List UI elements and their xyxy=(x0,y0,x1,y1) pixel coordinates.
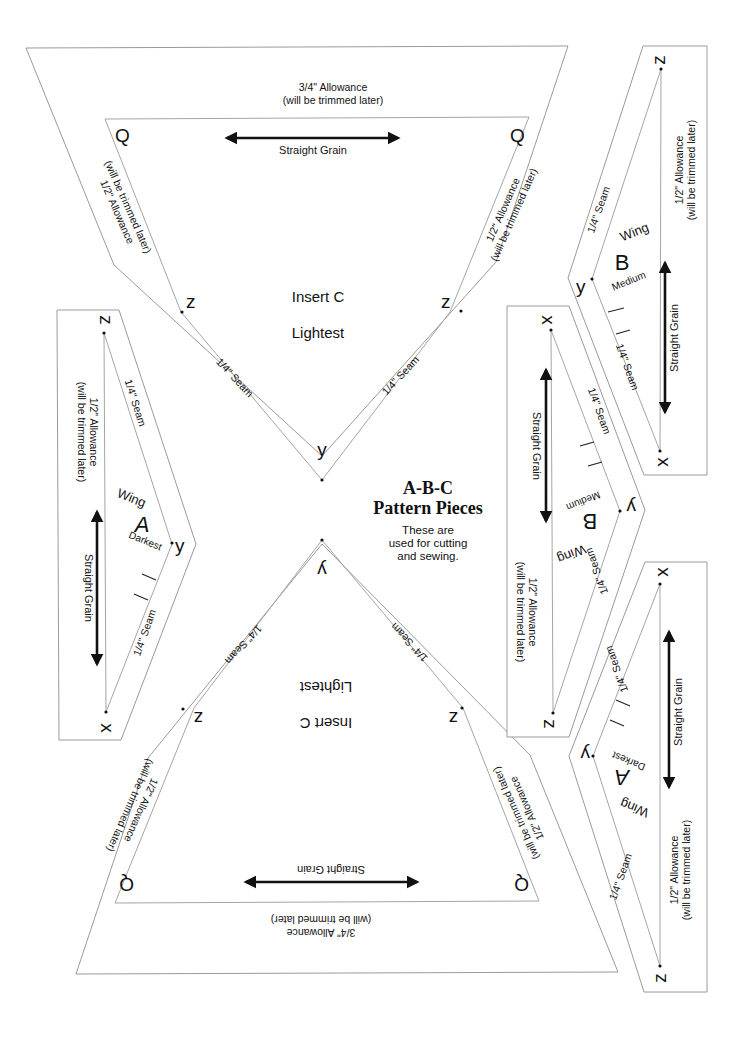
straight-grain-label: Straight Grain xyxy=(297,864,365,876)
point-marker xyxy=(104,710,107,713)
point-marker xyxy=(618,509,621,512)
point-marker xyxy=(460,706,463,709)
allowance-note: (will be trimmed later) xyxy=(283,94,383,106)
point-marker xyxy=(658,449,661,452)
title-line-2: Pattern Pieces xyxy=(373,498,482,518)
straight-grain-label: Straight Grain xyxy=(279,144,347,156)
point-marker xyxy=(170,541,173,544)
allowance-label: 1/2" Allowance xyxy=(527,578,539,647)
allowance-label: 3/4" Allowance xyxy=(299,81,368,93)
piece-shade: Lightest xyxy=(299,679,352,696)
point-label-y: y xyxy=(175,535,185,556)
point-marker xyxy=(102,331,105,334)
straight-grain-label: Straight Grain xyxy=(668,304,680,372)
piece-name: Insert C xyxy=(300,715,353,732)
point-marker xyxy=(551,711,554,714)
allowance-label: 1/2" Allowance xyxy=(673,136,685,205)
wing-a-left-piece: z x y 1/2" Allowance (will be trimmed la… xyxy=(57,310,196,740)
point-marker xyxy=(658,582,661,585)
point-label-y: y xyxy=(626,497,636,518)
point-marker xyxy=(320,478,323,481)
point-label-y: y xyxy=(317,439,327,460)
corner-label-q: Q xyxy=(119,874,134,895)
subtitle-line-3: and sewing. xyxy=(397,550,458,562)
straight-grain-label: Straight Grain xyxy=(672,678,684,746)
corner-label-q: Q xyxy=(115,125,130,146)
pattern-sheet: Straight Grain 3/4" Allowance (will be t… xyxy=(0,0,755,1051)
straight-grain-label: Straight Grain xyxy=(83,554,95,622)
allowance-label: 1/2" Allowance xyxy=(668,836,680,905)
point-label-z: z xyxy=(648,55,669,65)
piece-letter: A xyxy=(615,765,632,790)
title-line-1: A-B-C xyxy=(403,478,453,498)
point-label-z: z xyxy=(649,973,670,983)
point-label-y: y xyxy=(317,560,327,581)
allowance-note: (will be trimmed later) xyxy=(76,382,88,482)
point-marker xyxy=(658,964,661,967)
allowance-note: (will be trimmed later) xyxy=(680,820,692,920)
point-label-x: x xyxy=(97,723,118,733)
allowance-label: 3/4" Allowance xyxy=(287,927,356,939)
point-marker xyxy=(181,707,184,710)
point-label-z: z xyxy=(441,291,451,312)
corner-label-q: Q xyxy=(510,125,525,146)
point-label-x: x xyxy=(538,315,559,325)
piece-letter: B xyxy=(615,250,630,275)
point-marker xyxy=(659,67,662,70)
point-marker xyxy=(459,309,462,312)
point-label-z: z xyxy=(540,719,561,729)
point-label-x: x xyxy=(651,457,672,467)
corner-label-q: Q xyxy=(514,874,529,895)
point-marker xyxy=(549,328,552,331)
point-marker xyxy=(591,754,594,757)
point-marker xyxy=(590,277,593,280)
point-label-z: z xyxy=(96,315,117,325)
allowance-note: (will be trimmed later) xyxy=(685,120,697,220)
allowance-note: (will be trimmed later) xyxy=(271,914,371,926)
allowance-label: 1/2" Allowance xyxy=(88,398,100,467)
piece-shade: Lightest xyxy=(292,324,345,341)
allowance-note: (will be trimmed later) xyxy=(515,562,527,662)
point-label-y: y xyxy=(576,276,586,297)
point-label-z: z xyxy=(449,708,459,729)
point-marker xyxy=(320,538,323,541)
point-marker xyxy=(180,310,183,313)
title-block: A-B-C Pattern Pieces These are used for … xyxy=(373,478,482,562)
piece-letter: B xyxy=(583,509,598,534)
point-label-z: z xyxy=(186,291,196,312)
subtitle-line-1: These are xyxy=(402,524,454,536)
piece-name: Insert C xyxy=(292,288,345,305)
point-label-z: z xyxy=(194,708,204,729)
wing-a-left-cut-line xyxy=(57,310,196,740)
subtitle-line-2: used for cutting xyxy=(389,537,468,549)
point-label-y: y xyxy=(580,744,590,765)
point-label-x: x xyxy=(651,567,672,577)
straight-grain-label: Straight Grain xyxy=(531,412,543,480)
